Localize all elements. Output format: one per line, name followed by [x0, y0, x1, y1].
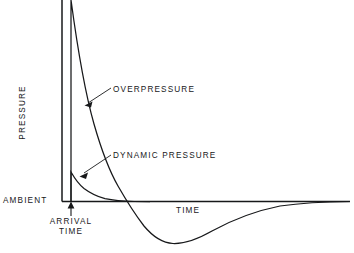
overpressure-curve — [71, 0, 350, 244]
ambient-baseline-label: AMBIENT — [3, 196, 47, 205]
arrival-time-label: ARRIVAL TIME — [46, 217, 96, 237]
arrival-time-label-line1: ARRIVAL — [46, 217, 96, 227]
overpressure-leader-line — [88, 88, 111, 103]
plot-area — [0, 0, 354, 253]
arrival-time-label-line2: TIME — [46, 227, 96, 237]
blast-wave-pressure-figure: PRESSURE AMBIENT TIME OVERPRESSURE DYNAM… — [0, 0, 354, 253]
x-axis-label: TIME — [176, 206, 200, 215]
dynamic-pressure-annotation-label: DYNAMIC PRESSURE — [113, 151, 216, 160]
overpressure-annotation-label: OVERPRESSURE — [113, 85, 195, 94]
dynamic-pressure-leader-arrowhead — [80, 173, 89, 180]
y-axis-label: PRESSURE — [18, 73, 27, 153]
arrival-time-arrowhead — [68, 202, 75, 209]
